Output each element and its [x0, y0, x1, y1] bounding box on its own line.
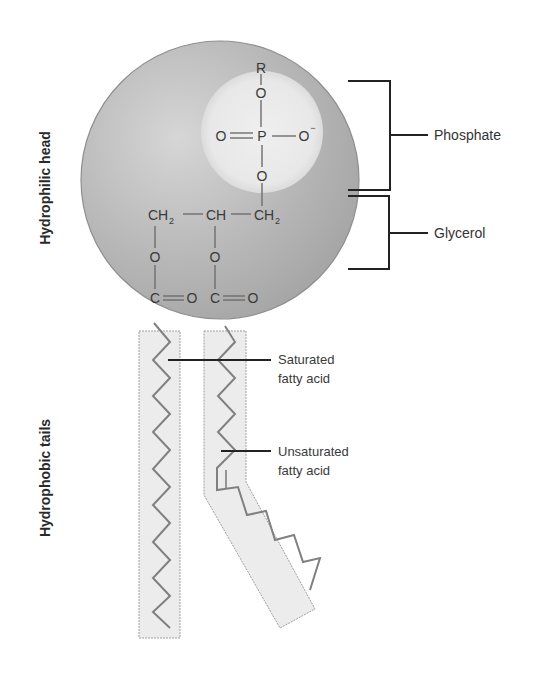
- ch2-left: CH: [148, 207, 168, 223]
- phosphate-label: Phosphate: [434, 127, 501, 143]
- atom-c-left: C: [150, 290, 160, 306]
- hydrophilic-head-label: Hydrophilic head: [37, 131, 53, 245]
- atom-o-carbonyl-left: O: [187, 290, 198, 306]
- glycerol-bracket: [348, 196, 428, 269]
- atom-o-bottom: O: [257, 168, 268, 184]
- glycerol-label: Glycerol: [434, 225, 485, 241]
- atom-p: P: [257, 128, 266, 144]
- hydrophobic-tails-label: Hydrophobic tails: [37, 419, 53, 537]
- unsaturated-label-line2: fatty acid: [278, 463, 330, 478]
- unsaturated-label-line1: Unsaturated: [278, 444, 349, 459]
- hydrophilic-head: R O O P O − O CH 2 CH CH 2 O O C O C O: [81, 41, 359, 319]
- atom-o-carbonyl-mid: O: [248, 290, 259, 306]
- phosphate-bracket: [348, 81, 428, 190]
- r-group: R: [256, 60, 266, 76]
- atom-o-top: O: [256, 85, 267, 101]
- atom-o-ester-left: O: [150, 249, 161, 265]
- atom-o-ester-mid: O: [210, 249, 221, 265]
- atom-c-mid: C: [210, 290, 220, 306]
- head-sphere: [81, 41, 359, 319]
- saturated-label-line2: fatty acid: [278, 371, 330, 386]
- saturated-tail-box: [139, 331, 180, 638]
- atom-o-minus: O: [299, 128, 310, 144]
- saturated-tail: [139, 323, 180, 638]
- ch2-left-subscript: 2: [169, 216, 174, 226]
- phospholipid-diagram: R O O P O − O CH 2 CH CH 2 O O C O C O P…: [0, 0, 556, 676]
- ch2-right: CH: [254, 207, 274, 223]
- atom-o-double: O: [216, 128, 227, 144]
- ch-mid: CH: [206, 207, 226, 223]
- ch2-right-subscript: 2: [275, 216, 280, 226]
- charge-minus: −: [310, 123, 315, 133]
- saturated-label-line1: Saturated: [278, 352, 334, 367]
